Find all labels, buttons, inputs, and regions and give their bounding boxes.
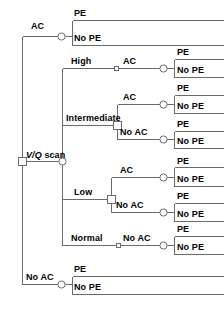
branch-label-noac-low: No AC (116, 200, 144, 210)
noac-chance-node[interactable] (58, 281, 65, 288)
root-label: V/Q scan (26, 150, 65, 160)
outcome-label-nope-4: No PE (177, 136, 204, 146)
category-label-high: High (71, 56, 91, 66)
high-join-marker[interactable] (115, 67, 119, 71)
intermediate-ac-chance-node[interactable] (160, 101, 167, 108)
category-label-low: Low (74, 187, 92, 197)
high-ac-chance-node[interactable] (160, 65, 167, 72)
branch-label-noac-intermediate: No AC (120, 127, 148, 137)
low-decision-node[interactable] (108, 196, 116, 204)
branch-label-ac-top: AC (31, 21, 44, 31)
outcome-label-nope-8: No PE (74, 282, 101, 292)
normal-noac-chance-node[interactable] (160, 242, 167, 249)
branch-label-ac-high: AC (123, 56, 136, 66)
category-label-normal: Normal (71, 233, 103, 243)
outcome-label-nope-1: No PE (74, 33, 101, 43)
low-ac-chance-node[interactable] (160, 174, 167, 181)
outcome-label-pe-2: PE (177, 47, 189, 57)
branch-label-noac-bottom: No AC (26, 272, 54, 282)
outcome-label-pe-3: PE (177, 83, 189, 93)
outcome-label-nope-5: No PE (177, 174, 204, 184)
outcome-label-pe-4: PE (177, 119, 189, 129)
outcome-label-pe-5: PE (177, 156, 189, 166)
branch-label-ac-intermediate: AC (123, 92, 136, 102)
low-noac-chance-node[interactable] (160, 209, 167, 216)
outcome-label-nope-3: No PE (177, 101, 204, 111)
normal-join-marker[interactable] (117, 244, 121, 248)
outcome-label-nope-2: No PE (177, 65, 204, 75)
branch-label-ac-low: AC (120, 165, 133, 175)
category-label-intermediate: Intermediate (66, 113, 121, 123)
branch-label-noac-normal: No AC (123, 233, 151, 243)
intermediate-noac-chance-node[interactable] (160, 136, 167, 143)
outcome-label-nope-7: No PE (177, 242, 204, 252)
ac-chance-node[interactable] (58, 33, 65, 40)
outcome-label-nope-6: No PE (177, 209, 204, 219)
decision-tree-diagram: AC PE No PE High AC PE No PE AC PE No PE… (0, 0, 224, 318)
root-label-italic: V/Q (26, 150, 42, 160)
outcome-label-pe-6: PE (177, 191, 189, 201)
outcome-label-pe-8: PE (74, 264, 86, 274)
root-label-plain: scan (42, 150, 66, 160)
outcome-label-pe-7: PE (177, 224, 189, 234)
outcome-label-pe-1: PE (74, 8, 86, 18)
